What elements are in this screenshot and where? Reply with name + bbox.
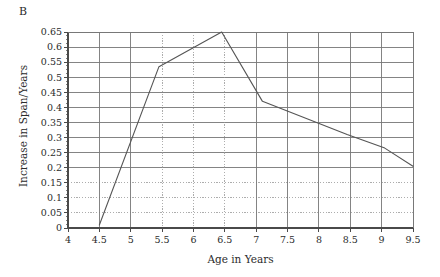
x-tick-label: 8.5 (343, 234, 358, 245)
x-tick-label: 5 (128, 234, 134, 245)
y-tick-label: 0.6 (47, 41, 62, 52)
x-tick-label: 9 (379, 234, 385, 245)
y-tick-label: 0.45 (41, 87, 62, 98)
x-tick-label: 9.5 (405, 234, 420, 245)
x-tick-label: 8 (316, 234, 322, 245)
y-axis-title: Increase in Span/Years (17, 36, 29, 216)
y-tick-label: 0.3 (47, 132, 62, 143)
y-tick-label: 0.4 (47, 102, 62, 113)
x-tick-label: 6.5 (217, 234, 232, 245)
y-tick-label: 0.05 (41, 207, 62, 218)
y-tick-label: 0.15 (41, 177, 62, 188)
y-tick-label: 0.65 (41, 26, 62, 37)
axis-layer (68, 32, 413, 228)
figure-panel-b: B Increase in Span/Years Age in Years 00… (0, 0, 440, 277)
x-tick-label: 7 (253, 234, 259, 245)
y-tick-label: 0.1 (47, 192, 62, 203)
x-tick-label: 7.5 (280, 234, 295, 245)
x-tick-label: 4.5 (92, 234, 107, 245)
x-tick-label: 5.5 (155, 234, 170, 245)
y-tick-label: 0.35 (41, 117, 62, 128)
y-tick-label: 0.2 (47, 162, 62, 173)
grid-layer (68, 32, 413, 228)
y-tick-label: 0.5 (47, 72, 62, 83)
y-tick-label: 0 (56, 222, 62, 233)
line-chart-plot: 00.050.10.150.20.250.30.350.40.450.50.55… (0, 0, 440, 277)
y-tick-label: 0.55 (41, 56, 62, 67)
tick-layer: 00.050.10.150.20.250.30.350.40.450.50.55… (41, 26, 421, 245)
x-axis-title: Age in Years (68, 253, 413, 265)
x-tick-label: 4 (65, 234, 71, 245)
y-tick-label: 0.25 (41, 147, 62, 158)
x-tick-label: 6 (190, 234, 196, 245)
panel-label: B (19, 5, 27, 18)
